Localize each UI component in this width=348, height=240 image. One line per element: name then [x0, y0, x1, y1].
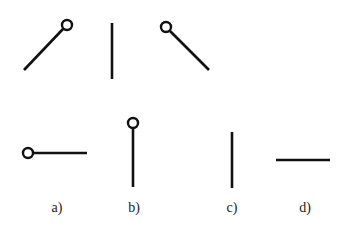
open-circle-icon [128, 118, 138, 128]
open-circle-icon [23, 148, 33, 158]
open-circle-icon [161, 22, 171, 32]
label-d: d) [299, 200, 311, 216]
line-segment [24, 29, 63, 70]
label-b: b) [128, 200, 140, 216]
figure-b [128, 118, 138, 187]
top-diagonal-up-with-pin [24, 20, 72, 70]
label-c: c) [227, 200, 238, 216]
label-a: a) [52, 200, 63, 216]
top-diagonal-down-with-pin [161, 22, 209, 70]
line-segment [170, 31, 209, 70]
open-circle-icon [62, 20, 72, 30]
figure-a [23, 148, 87, 158]
